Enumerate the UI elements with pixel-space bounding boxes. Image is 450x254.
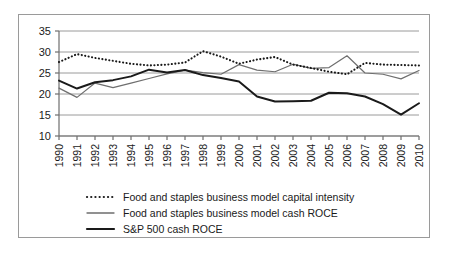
- y-tick-label: 15: [39, 109, 51, 121]
- x-tick-label: 1996: [161, 144, 173, 168]
- series-line-1: [59, 51, 419, 74]
- x-tick-label: 1997: [179, 144, 191, 168]
- series-line-2: [59, 56, 419, 98]
- x-tick-labels: 1990199119921993199419951996199719981999…: [53, 144, 425, 168]
- legend-label: S&P 500 cash ROCE: [123, 223, 223, 235]
- x-tick-label: 1994: [125, 144, 137, 168]
- x-tick-label: 2002: [269, 144, 281, 168]
- x-tick-label: 2001: [251, 144, 263, 168]
- chart-legend: Food and staples business model capital …: [87, 191, 355, 235]
- x-tick-label: 2007: [359, 144, 371, 168]
- y-axis: [55, 31, 59, 136]
- series-lines: [59, 51, 419, 114]
- y-tick-label: 10: [39, 130, 51, 142]
- x-tick-label: 2008: [377, 144, 389, 168]
- x-axis: [59, 136, 419, 140]
- legend-label: Food and staples business model capital …: [123, 191, 355, 203]
- chart-figure: 101520253035 199019911992199319941995199…: [18, 14, 430, 238]
- x-tick-label: 1993: [107, 144, 119, 168]
- x-tick-label: 1995: [143, 144, 155, 168]
- y-tick-label: 35: [39, 25, 51, 37]
- x-tick-label: 1990: [53, 144, 65, 168]
- line-chart: 101520253035 199019911992199319941995199…: [19, 15, 431, 239]
- x-tick-label: 2009: [395, 144, 407, 168]
- x-tick-label: 2005: [323, 144, 335, 168]
- y-tick-label: 30: [39, 46, 51, 58]
- y-tick-label: 20: [39, 88, 51, 100]
- y-tick-label: 25: [39, 67, 51, 79]
- x-tick-label: 2006: [341, 144, 353, 168]
- grid-lines: [59, 31, 419, 136]
- series-line-3: [59, 70, 419, 115]
- x-tick-label: 1998: [197, 144, 209, 168]
- x-tick-label: 2000: [233, 144, 245, 168]
- x-tick-label: 1991: [71, 144, 83, 168]
- x-tick-label: 1999: [215, 144, 227, 168]
- x-tick-label: 2003: [287, 144, 299, 168]
- legend-label: Food and staples business model cash ROC…: [123, 207, 338, 219]
- x-tick-label: 2004: [305, 144, 317, 168]
- x-tick-label: 2010: [413, 144, 425, 168]
- y-tick-labels: 101520253035: [39, 25, 51, 142]
- x-tick-label: 1992: [89, 144, 101, 168]
